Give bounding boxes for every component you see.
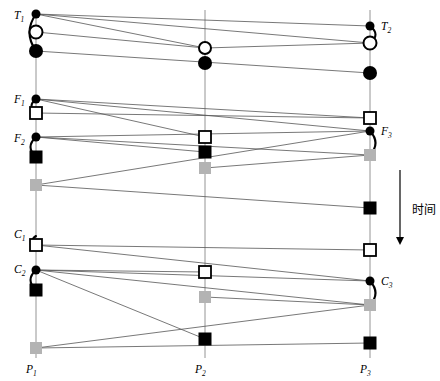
marker-gray-square [364,149,376,161]
event-label-T2: T2 [381,21,391,35]
event-label-F2-subscript: 2 [21,138,25,147]
marker-filled-square [30,284,43,297]
event-label-T2-subscript: 2 [387,26,391,35]
marker-open-square [364,244,376,256]
event-label-F1: F1 [14,94,25,108]
event-label-C2-main: C [14,263,22,275]
process-label-P2-main: P [195,363,202,375]
event-label-C1-main: C [14,228,22,240]
message-line [205,297,370,305]
marker-filled-square [199,333,212,346]
marker-filled-square [199,146,212,159]
marker-gray-square [30,179,42,191]
marker-dot [32,266,41,275]
event-label-C2: C2 [14,264,25,278]
diagram-canvas: T1T2F1F2F3C1C2C3P1P2P3时间 [0,0,440,381]
marker-open-square [364,112,376,124]
marker-dot [366,22,375,31]
marker-gray-square [30,342,42,354]
event-label-F1-subscript: 1 [21,99,25,108]
time-axis-arrowhead [396,237,404,245]
marker-dot [32,10,41,19]
process-label-P1-main: P [26,363,33,375]
marker-open-square [199,131,211,143]
marker-dot [32,133,41,142]
time-axis-arrow-group [396,170,404,245]
process-label-P2: P2 [195,364,206,378]
process-label-P3-main: P [360,363,367,375]
marker-gray-square [199,291,211,303]
event-markers-group [29,10,377,355]
event-label-F1-main: F [14,93,21,105]
event-label-F2-main: F [14,132,21,144]
message-line [205,43,370,48]
marker-open-circle [364,37,377,50]
event-label-T1-subscript: 1 [20,15,24,24]
message-line [36,99,205,137]
marker-filled-circle [363,66,377,80]
process-label-P3-subscript: 3 [367,369,371,378]
marker-gray-square [199,162,211,174]
event-label-C2-subscript: 2 [22,269,26,278]
event-label-C3-main: C [381,275,389,287]
marker-open-square [30,107,42,119]
event-label-T1: T1 [14,10,24,24]
marker-open-square [199,266,211,278]
event-label-C1-subscript: 1 [22,234,26,243]
marker-dot [366,277,375,286]
marker-filled-square [30,151,43,164]
event-label-F3-subscript: 3 [388,131,392,140]
marker-filled-circle [29,44,43,58]
timeline-diagram-svg [0,0,440,381]
message-line [205,155,370,168]
process-label-P3: P3 [360,364,371,378]
event-label-F2: F2 [14,133,25,147]
event-label-C3: C3 [381,276,392,290]
event-label-F3: F3 [381,126,392,140]
marker-open-square [30,239,42,251]
message-line [36,32,205,48]
process-label-P1-subscript: 1 [33,369,37,378]
marker-gray-square [364,299,376,311]
message-line [36,14,370,43]
marker-open-circle [199,42,211,54]
message-line [36,185,370,208]
process-label-P1: P1 [26,364,37,378]
marker-filled-circle [198,56,212,70]
marker-dot [366,127,375,136]
time-axis-label: 时间 [412,204,436,216]
process-label-P2-subscript: 2 [202,369,206,378]
marker-filled-square [364,202,377,215]
marker-dot [32,95,41,104]
event-label-F3-main: F [381,125,388,137]
message-line [36,270,205,339]
message-line [36,245,370,250]
marker-open-circle [30,26,43,39]
event-label-C1: C1 [14,229,25,243]
event-label-C3-subscript: 3 [389,281,393,290]
marker-filled-square [364,337,377,350]
